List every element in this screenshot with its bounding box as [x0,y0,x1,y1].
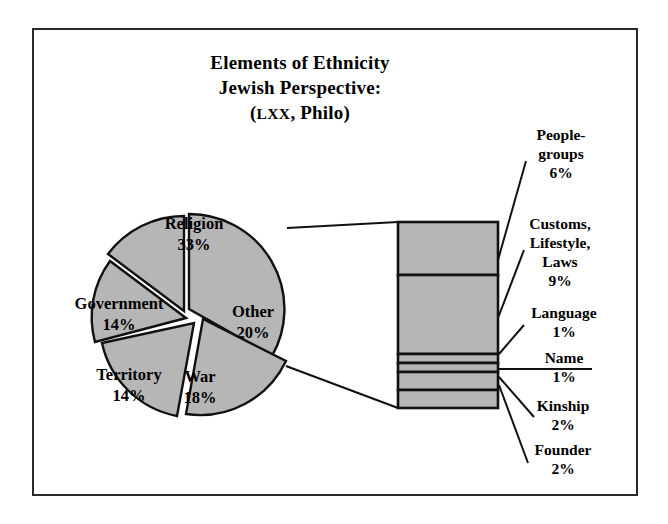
pie-label-religion-pct: 33% [178,235,211,254]
breakout-label-kinship-pct: 2% [512,415,614,434]
breakout-label-founder-line1: Founder [510,440,616,459]
breakout-label-people-groups-line2: groups [506,144,616,163]
breakout-label-founder: Founder 2% [510,440,616,478]
breakout-label-customs-line3: Laws [500,252,620,271]
bar-segment-language [398,354,498,363]
bar-segment-customs-lifestyle-laws [398,275,498,354]
pie-label-war-pct: 18% [184,388,217,407]
pie-label-war-name: War [184,367,215,386]
pie-label-other-name: Other [232,302,274,321]
breakout-label-kinship: Kinship 2% [512,396,614,434]
breakout-label-kinship-line1: Kinship [512,396,614,415]
breakout-label-people-groups-line1: People- [506,125,616,144]
breakout-label-name-pct: 1% [516,367,612,386]
breakout-label-language-pct: 1% [508,322,620,341]
breakout-label-customs-line1: Customs, [500,214,620,233]
breakout-label-people-groups: People- groups 6% [506,125,616,182]
pie-label-government-pct: 14% [103,315,136,334]
breakout-label-customs-pct: 9% [500,271,620,290]
pie-label-other-pct: 20% [237,323,270,342]
breakout-label-customs: Customs, Lifestyle, Laws 9% [500,214,620,290]
bar-segment-kinship [398,372,498,390]
breakout-connector-top [287,222,398,228]
pie-label-government-name: Government [75,294,164,313]
breakout-connector-bottom [286,366,398,408]
breakout-label-language: Language 1% [508,303,620,341]
pie-label-territory-name: Territory [96,365,162,384]
breakout-label-name: Name 1% [516,348,612,386]
bar-segment-people-groups [398,222,498,275]
breakout-label-customs-line2: Lifestyle, [500,233,620,252]
breakout-label-language-line1: Language [508,303,620,322]
pie-label-territory-pct: 14% [113,386,146,405]
pie-label-religion-name: Religion [165,214,224,233]
breakout-label-name-line1: Name [516,348,612,367]
breakout-label-founder-pct: 2% [510,459,616,478]
bar-segment-name [398,363,498,372]
chart-figure: Elements of Ethnicity Jewish Perspective… [0,0,668,524]
bar-segment-founder [398,390,498,408]
breakout-label-people-groups-pct: 6% [506,163,616,182]
